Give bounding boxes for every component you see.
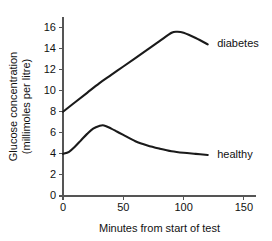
- series-labels-group: diabetes healthy: [217, 37, 259, 160]
- y-axis-title-line-1: Glucose concentration: [7, 52, 19, 161]
- series-group: [63, 32, 208, 155]
- series-label-healthy: healthy: [217, 148, 253, 160]
- y-tick-label: 8: [50, 105, 56, 117]
- x-tick-label: 50: [117, 201, 129, 213]
- x-tick-label: 150: [235, 201, 253, 213]
- y-tick-label: 16: [44, 21, 56, 33]
- series-line-diabetes: [63, 32, 208, 112]
- x-tick-label: 0: [60, 201, 66, 213]
- y-tick-label: 10: [44, 84, 56, 96]
- y-tick-label: 6: [50, 126, 56, 138]
- y-tick-label: 14: [44, 42, 56, 54]
- x-axis-group: 050100150: [60, 196, 256, 213]
- y-tick-group: 0246810121416: [44, 21, 63, 201]
- y-axis-title-line-2: (millimoles per litre): [20, 59, 32, 154]
- y-tick-label: 4: [50, 147, 56, 159]
- y-tick-label: 0: [50, 189, 56, 201]
- x-tick-label: 100: [174, 201, 192, 213]
- x-tick-group: 050100150: [60, 196, 253, 213]
- x-axis-title: Minutes from start of test: [99, 222, 220, 234]
- y-axis-group: 0246810121416: [44, 17, 63, 201]
- series-label-diabetes: diabetes: [217, 37, 259, 49]
- chart-canvas: 0246810121416 050100150 diabetes healthy…: [0, 0, 272, 241]
- y-tick-label: 12: [44, 63, 56, 75]
- glucose-tolerance-chart: 0246810121416 050100150 diabetes healthy…: [0, 0, 272, 241]
- y-tick-label: 2: [50, 168, 56, 180]
- series-line-healthy: [63, 125, 208, 155]
